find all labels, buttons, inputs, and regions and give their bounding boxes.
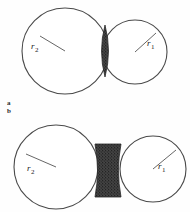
radius-subscript: 1 (151, 43, 155, 51)
radius-label-r2-panel-b: r2 (27, 164, 34, 173)
radius-subscript: 2 (31, 168, 35, 176)
radius-symbol: r (31, 41, 35, 51)
radius-symbol: r (147, 38, 151, 48)
figure-canvas (0, 0, 190, 212)
radius-label-r2-panel-a: r2 (31, 42, 38, 51)
figure-root: r2 r1 r2 r1 a b (0, 0, 190, 212)
radius-subscript: 2 (35, 46, 39, 54)
radius-symbol: r (158, 161, 162, 171)
radius-symbol: r (27, 163, 31, 173)
radius-label-r1-panel-a: r1 (147, 39, 154, 48)
panel-a-group (22, 8, 167, 94)
radius-subscript: 1 (162, 166, 166, 174)
panel-caption-b: b (7, 108, 11, 115)
radius-label-r1-panel-b: r1 (158, 162, 165, 171)
panel-caption-a: a (7, 100, 11, 107)
